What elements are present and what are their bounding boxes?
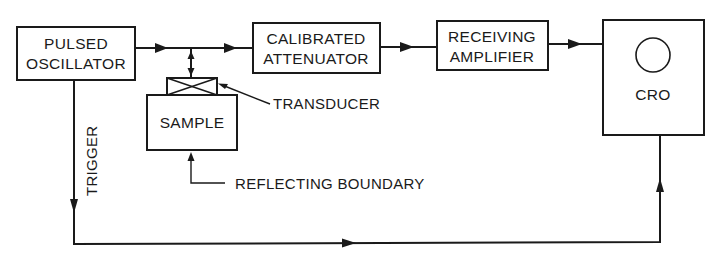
pulsed-oscillator-label-line2: OSCILLATOR	[26, 55, 126, 72]
arrow-right-icon	[568, 39, 582, 49]
reflecting-boundary-label: REFLECTING BOUNDARY	[235, 175, 425, 192]
calibrated-attenuator-block: CALIBRATED ATTENUATOR	[253, 23, 380, 73]
cro-block: CRO	[603, 20, 704, 135]
signal-line-amplifier-to-cro	[548, 39, 603, 49]
signal-line-oscillator-to-attenuator	[135, 43, 253, 53]
arrow-right-icon	[224, 43, 237, 53]
signal-line-attenuator-to-amplifier	[380, 42, 437, 52]
trigger-label: TRIGGER	[83, 126, 100, 196]
calibrated-attenuator-label-line2: ATTENUATOR	[263, 50, 368, 67]
ultrasonic-pulse-echo-block-diagram: PULSED OSCILLATOR SAMPLE TRANSDUCER REFL…	[0, 0, 716, 263]
arrow-up-icon	[656, 178, 664, 192]
transducer-annotation: TRANSDUCER	[218, 84, 380, 113]
arrow-down-icon	[70, 199, 78, 213]
pulsed-oscillator-label-line1: PULSED	[44, 35, 108, 52]
arrow-up-icon	[188, 51, 195, 59]
transducer-label: TRANSDUCER	[273, 95, 380, 112]
arrow-right-icon	[155, 43, 168, 53]
cro-label: CRO	[635, 86, 670, 103]
arrow-up-icon	[188, 152, 195, 161]
calibrated-attenuator-label-line1: CALIBRATED	[266, 30, 365, 47]
reflecting-boundary-annotation: REFLECTING BOUNDARY	[188, 152, 425, 192]
transducer	[167, 78, 217, 95]
arrow-right-icon	[342, 239, 356, 248]
arrow-right-icon	[400, 42, 414, 52]
transducer-link	[188, 48, 195, 78]
arrow-down-icon	[188, 68, 195, 76]
sample-block: SAMPLE	[147, 95, 237, 150]
receiving-amplifier-label-line1: RECEIVING	[448, 28, 536, 45]
receiving-amplifier-block: RECEIVING AMPLIFIER	[437, 21, 548, 70]
receiving-amplifier-label-line2: AMPLIFIER	[450, 48, 535, 65]
arrow-left-icon	[218, 84, 228, 90]
pulsed-oscillator-block: PULSED OSCILLATOR	[17, 27, 135, 80]
sample-label: SAMPLE	[160, 114, 225, 131]
